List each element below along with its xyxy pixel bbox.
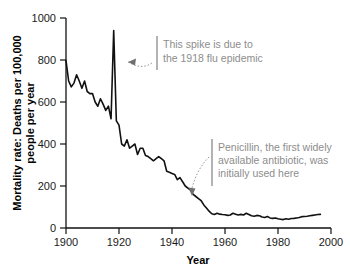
annotation-penicillin-line1: Penicillin, the first widely <box>218 141 333 153</box>
x-tick-label-1900: 1900 <box>54 236 78 248</box>
annotation-flu-spike-line2: the 1918 flu epidemic <box>163 52 263 64</box>
y-tick-label-400: 400 <box>38 138 56 150</box>
chart-figure: 1000 800 600 400 200 0 1900 1920 1940 19… <box>0 0 350 271</box>
x-tick-label-1980: 1980 <box>266 236 290 248</box>
x-tick-label-1920: 1920 <box>107 236 131 248</box>
x-tick-label-1940: 1940 <box>160 236 184 248</box>
y-tick-label-800: 800 <box>38 54 56 66</box>
x-axis-title: Year <box>186 254 210 266</box>
mortality-rate-line-chart: 1000 800 600 400 200 0 1900 1920 1940 19… <box>0 0 350 271</box>
x-tick-label-2000: 2000 <box>319 236 343 248</box>
y-tick-label-200: 200 <box>38 180 56 192</box>
annotation-penicillin-line3: initially used here <box>218 167 299 179</box>
y-tick-label-0: 0 <box>50 222 56 234</box>
y-axis-title-line2: people per year <box>24 82 36 164</box>
annotation-flu-spike-line1: This spike is due to <box>163 38 253 50</box>
y-tick-label-1000: 1000 <box>32 12 56 24</box>
y-tick-label-600: 600 <box>38 96 56 108</box>
x-tick-label-1960: 1960 <box>213 236 237 248</box>
y-axis-title-line1: Mortality rate: Deaths per 100,000 <box>11 35 23 210</box>
annotation-penicillin-line2: available antibiotic, was <box>218 154 328 166</box>
